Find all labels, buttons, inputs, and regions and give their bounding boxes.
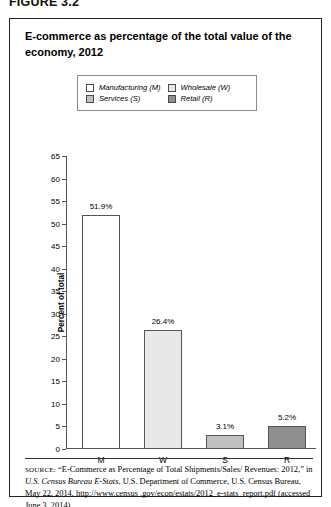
y-axis-tick-label: 40: [51, 264, 60, 273]
y-axis-tick-label: 0: [56, 445, 60, 454]
y-axis-tick: [62, 381, 66, 382]
y-axis-tick-label: 45: [51, 242, 60, 251]
y-axis-line: [66, 156, 67, 449]
source-text-1: “E-Commerce as Percentage of Total Shipm…: [56, 465, 313, 474]
legend-label: Manufacturing (M): [99, 83, 161, 92]
legend-row: Manufacturing (M) Wholesale (W): [86, 83, 249, 92]
y-axis-tick-label: 20: [51, 354, 60, 363]
y-axis-tick: [62, 426, 66, 427]
y-axis-tick-label: 30: [51, 309, 60, 318]
figure-root: FIGURE 3.2 E-commerce as percentage of t…: [0, 0, 331, 507]
bar-value-label: 5.2%: [278, 413, 296, 422]
legend-label: Services (S): [99, 94, 140, 103]
legend-item-manufacturing: Manufacturing (M): [86, 83, 168, 92]
y-axis-tick: [62, 246, 66, 247]
bar-value-label: 51.9%: [90, 202, 113, 211]
legend-row: Services (S) Retail (R): [86, 94, 249, 103]
bar-w: [144, 330, 182, 449]
y-axis-tick-label: 55: [51, 197, 60, 206]
y-axis-tick: [62, 359, 66, 360]
y-axis-tick: [62, 201, 66, 202]
chart-title: E-commerce as percentage of the total va…: [25, 29, 303, 61]
plot-area: 05101520253035404550556065 51.9%M26.4%W3…: [66, 156, 314, 449]
y-axis-tick-label: 10: [51, 399, 60, 408]
y-axis-tick-label: 65: [51, 152, 60, 161]
legend-swatch-icon: [168, 95, 176, 103]
legend-swatch-icon: [86, 95, 94, 103]
legend-swatch-icon: [86, 84, 94, 92]
source-divider: [25, 458, 313, 459]
y-axis-tick-label: 25: [51, 332, 60, 341]
bar-s: [206, 435, 244, 449]
legend-label: Retail (R): [181, 94, 213, 103]
source-italic-1: U.S. Census Bureau E-Stats: [25, 477, 118, 486]
y-axis-tick-label: 50: [51, 219, 60, 228]
y-axis-tick-label: 60: [51, 174, 60, 183]
y-axis-tick-label: 15: [51, 377, 60, 386]
y-axis-title-text: Percent of total: [57, 273, 66, 333]
figure-label: FIGURE 3.2: [9, 0, 79, 9]
legend-label: Wholesale (W): [181, 83, 231, 92]
figure-box: E-commerce as percentage of the total va…: [9, 18, 322, 497]
bar-r: [268, 426, 306, 449]
y-axis-tick: [62, 269, 66, 270]
bar-value-label: 3.1%: [216, 422, 234, 431]
y-axis-tick: [62, 179, 66, 180]
legend-item-retail: Retail (R): [168, 94, 250, 103]
source-prefix: SOURCE:: [25, 466, 56, 474]
legend-item-wholesale: Wholesale (W): [168, 83, 250, 92]
bar-m: [82, 215, 120, 449]
y-axis-tick: [62, 449, 66, 450]
y-axis-tick: [62, 336, 66, 337]
y-axis-tick-label: 5: [56, 422, 60, 431]
legend-item-services: Services (S): [86, 94, 168, 103]
legend-swatch-icon: [168, 84, 176, 92]
y-axis-tick: [62, 314, 66, 315]
y-axis-tick: [62, 404, 66, 405]
source-note: SOURCE: “E-Commerce as Percentage of Tot…: [25, 464, 313, 507]
y-axis-tick: [62, 224, 66, 225]
y-axis-tick-label: 35: [51, 287, 60, 296]
y-axis-tick: [62, 291, 66, 292]
chart-legend: Manufacturing (M) Wholesale (W) Services…: [77, 75, 257, 111]
bar-value-label: 26.4%: [152, 317, 175, 326]
y-axis-tick: [62, 156, 66, 157]
